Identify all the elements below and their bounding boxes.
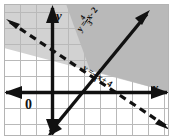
graph-figure: y x 0 y =43x- 2 y =-23x+ 4 — [0, 0, 173, 140]
y-axis-label: y — [56, 8, 62, 24]
x-axis-label: x — [152, 80, 159, 96]
origin-label: 0 — [25, 97, 32, 113]
